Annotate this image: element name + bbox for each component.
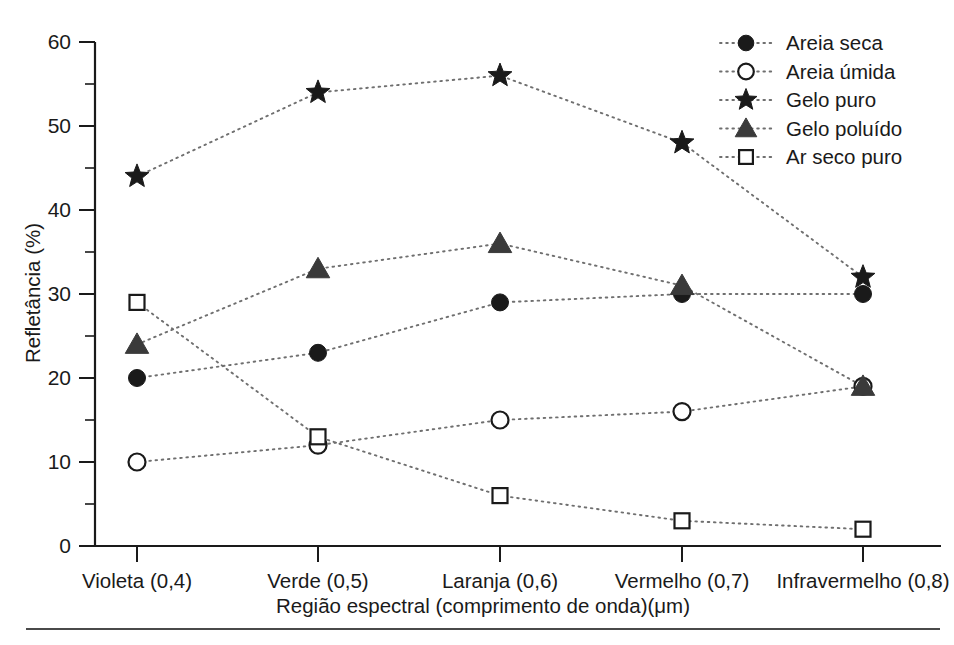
chart-figure: Refletância (%) 0102030405060 Violeta (0… [0, 0, 954, 645]
data-point-marker [488, 63, 512, 86]
x-tick-label: Violeta (0,4) [82, 569, 192, 592]
data-point-marker [493, 488, 508, 503]
legend-item: Ar seco puro [720, 145, 902, 168]
data-point-marker [675, 513, 690, 528]
series-markers [129, 378, 872, 471]
legend-item: Areia úmida [720, 60, 896, 83]
series-line [137, 244, 863, 387]
data-point-marker [125, 333, 148, 353]
y-tick-label: 40 [48, 198, 71, 221]
legend-item: Gelo poluído [720, 117, 902, 140]
series-layer [125, 63, 875, 537]
data-point-marker [739, 150, 753, 164]
data-point-marker [735, 118, 757, 137]
y-axis-title: Refletância (%) [21, 223, 44, 363]
data-point-marker [306, 80, 330, 103]
data-point-marker [674, 403, 691, 420]
x-axis-tick-labels: Violeta (0,4)Verde (0,5)Laranja (0,6)Ver… [82, 569, 950, 592]
series-markers [125, 63, 875, 287]
x-axis-title-text: Região espectral (comprimento de onda)(μ… [276, 594, 690, 617]
data-point-marker [311, 429, 326, 444]
chart-legend: Areia secaAreia úmidaGelo puroGelo poluí… [720, 31, 902, 168]
data-point-marker [492, 294, 509, 311]
legend-item-label: Areia seca [786, 31, 883, 54]
data-point-marker [856, 522, 871, 537]
data-point-marker [129, 454, 146, 471]
y-tick-label: 20 [48, 366, 71, 389]
legend-item: Areia seca [720, 31, 883, 54]
data-point-marker [855, 286, 872, 303]
y-tick-label: 0 [59, 534, 71, 557]
y-tick-label: 50 [48, 114, 71, 137]
x-axis-ticks [137, 546, 863, 562]
data-point-marker [738, 35, 754, 51]
data-point-marker [125, 164, 149, 187]
data-point-marker [851, 265, 875, 288]
data-point-marker [738, 64, 754, 80]
data-point-marker [310, 344, 327, 361]
data-point-marker [735, 89, 757, 110]
legend-item: Gelo puro [720, 88, 876, 111]
legend-item-label: Areia úmida [786, 60, 896, 83]
y-axis-title-text: Refletância (%) [21, 223, 44, 363]
y-axis-ticks: 0102030405060 [48, 30, 95, 557]
reflectance-spectral-line-chart: Refletância (%) 0102030405060 Violeta (0… [0, 0, 954, 645]
x-tick-label: Vermelho (0,7) [615, 569, 749, 592]
data-point-marker [129, 370, 146, 387]
series-group [137, 244, 863, 387]
y-tick-label: 60 [48, 30, 71, 53]
legend-item-label: Gelo poluído [786, 117, 902, 140]
y-tick-label: 10 [48, 450, 71, 473]
data-point-marker [130, 295, 145, 310]
data-point-marker [488, 232, 511, 252]
series-markers [125, 232, 874, 395]
y-tick-label: 30 [48, 282, 71, 305]
legend-item-label: Gelo puro [786, 88, 876, 111]
legend-item-label: Ar seco puro [786, 145, 902, 168]
x-tick-label: Infravermelho (0,8) [776, 569, 949, 592]
x-tick-label: Verde (0,5) [267, 569, 368, 592]
data-point-marker [492, 412, 509, 429]
data-point-marker [670, 130, 694, 153]
x-tick-label: Laranja (0,6) [442, 569, 558, 592]
